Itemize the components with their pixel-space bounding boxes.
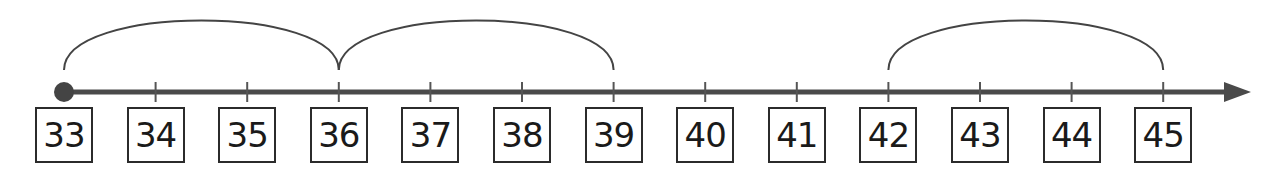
number-box: 41: [768, 107, 826, 163]
number-box: 43: [951, 107, 1009, 163]
number-box: 34: [127, 107, 185, 163]
number-box: 38: [493, 107, 551, 163]
jump-arc: [339, 21, 614, 71]
start-dot-icon: [54, 82, 74, 102]
number-box: 45: [1134, 107, 1192, 163]
number-line-diagram: 33343536373839404142434445: [0, 0, 1269, 182]
number-box: 36: [310, 107, 368, 163]
number-box: 44: [1043, 107, 1101, 163]
number-box: 33: [35, 107, 93, 163]
number-box: 39: [585, 107, 643, 163]
number-box: 40: [676, 107, 734, 163]
number-box: 42: [859, 107, 917, 163]
jump-arc: [888, 21, 1163, 71]
jump-arcs: [64, 21, 1163, 71]
number-box: 35: [218, 107, 276, 163]
number-box: 37: [401, 107, 459, 163]
arrow-right-icon: [1224, 82, 1251, 102]
jump-arc: [64, 21, 339, 71]
